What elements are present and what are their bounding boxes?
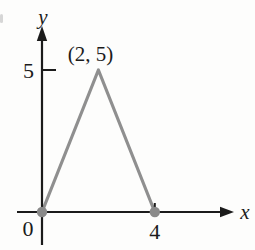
- y-tick-label-5: 5: [23, 58, 34, 83]
- x-axis-arrowhead-icon: [220, 207, 234, 217]
- origin-label: 0: [23, 216, 34, 241]
- triangle-graph-canvas: y x 5 4 0 (2, 5): [0, 0, 255, 250]
- data-point-x4: [150, 207, 160, 217]
- y-axis-label: y: [36, 5, 48, 29]
- x-axis-label: x: [239, 200, 250, 224]
- scan-artifact: [0, 14, 3, 23]
- data-point-origin: [37, 207, 47, 217]
- peak-coordinate-label: (2, 5): [68, 42, 114, 66]
- x-tick-label-4: 4: [149, 219, 160, 244]
- triangle-path-line: [42, 70, 155, 212]
- coordinate-graph-figure: y x 5 4 0 (2, 5): [0, 0, 255, 250]
